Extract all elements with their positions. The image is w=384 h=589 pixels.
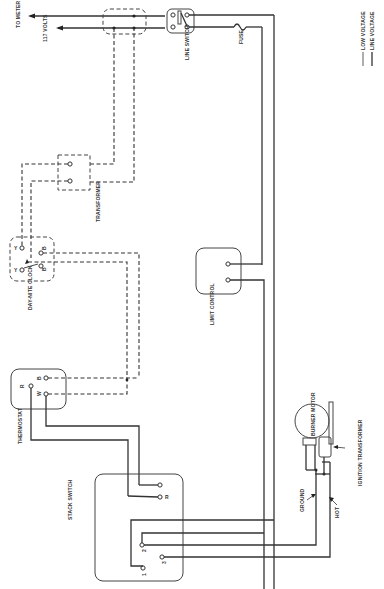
stack-switch-label: STACK SWITCH [67, 479, 73, 520]
burner-motor-label: BURNER MOTOR [310, 392, 316, 436]
thermostat-terminal-r: R [19, 384, 25, 388]
legend: LOW VOLTAGE LINE VOLTAGE [360, 11, 375, 66]
fuse-label: FUSE [238, 29, 244, 44]
line-switch: LINE SWITCH [167, 9, 194, 60]
stack-terminal-2: 2 [141, 549, 147, 552]
thermostat-label: THERMOSTAT [17, 408, 23, 444]
limit-control-label: LIMIT CONTROL [209, 283, 215, 325]
wiring-diagram: LOW VOLTAGE LINE VOLTAGE TO METER 117 VO… [0, 0, 384, 589]
legend-low-voltage: LOW VOLTAGE [360, 11, 366, 50]
clock-terminal-b2: B [41, 267, 47, 271]
clock-terminal-b1: B [41, 246, 47, 250]
thermostat-terminal-b: B [36, 376, 42, 380]
supply-lines: TO METER 117 VOLTS [15, 0, 165, 42]
clock-terminal-y1: Y [14, 245, 18, 251]
stack-terminal-r: R [165, 494, 169, 500]
transformer-label: TRANSFORMER [95, 181, 101, 222]
hot-label: HOT [334, 507, 340, 518]
stack-switch: R 2 3 1 STACK SWITCH [67, 474, 183, 581]
line-switch-label: LINE SWITCH [184, 25, 190, 60]
ground-label: GROUND [299, 488, 305, 512]
stack-terminal-1: 1 [141, 573, 147, 576]
transformer: TRANSFORMER [58, 155, 101, 222]
day-nite-clock: Y Y B B DAY-NITE CLOCK [10, 237, 54, 310]
volts-label: 117 VOLTS [42, 14, 48, 42]
legend-line-voltage: LINE VOLTAGE [369, 11, 375, 50]
to-meter-label: TO METER [15, 0, 21, 28]
clock-label: DAY-NITE CLOCK [27, 265, 33, 310]
stack-terminal-3: 3 [161, 561, 167, 564]
limit-control: LIMIT CONTROL [196, 248, 241, 325]
burner-motor: BURNER MOTOR IGNITION TRANSFORMER [295, 392, 363, 486]
ignition-transformer-label: IGNITION TRANSFORMER [357, 419, 363, 486]
clock-terminal-y2: Y [14, 267, 18, 273]
thermostat: R B W THERMOSTAT [11, 369, 66, 444]
thermostat-terminal-w: W [36, 391, 42, 396]
junction-enclosure [103, 9, 146, 34]
